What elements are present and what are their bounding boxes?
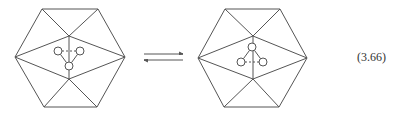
right-hexagon-structure [198, 9, 307, 107]
hexagon-outline [15, 9, 125, 107]
atom-circle [259, 58, 267, 66]
atom-circle [237, 58, 245, 66]
atom-circle [54, 47, 62, 55]
equation-number: (3.66) [357, 50, 386, 65]
left-hexagon-structure [15, 9, 125, 107]
atom-circle [248, 43, 256, 51]
atom-circle [76, 47, 84, 55]
equilibrium-diagram [0, 0, 407, 114]
equilibrium-arrows [144, 52, 183, 62]
atom-circle [65, 62, 73, 70]
